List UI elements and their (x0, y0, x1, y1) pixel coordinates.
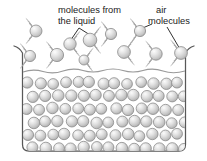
vapor-molecule-sphere (64, 38, 76, 50)
vapor-molecule-sphere (79, 55, 89, 65)
liquid-molecule (153, 90, 164, 101)
liquid-molecule (172, 128, 183, 139)
vapor-molecule-sphere (134, 25, 145, 36)
liquid-molecule (161, 78, 172, 89)
liquid-molecule (84, 104, 95, 115)
liquid-molecule (122, 79, 133, 90)
liquid-molecule (98, 78, 109, 89)
liquid-molecule (60, 103, 71, 114)
liquid-molecule (136, 77, 147, 88)
liquid-molecule (40, 116, 51, 127)
liquid-molecule (136, 103, 147, 114)
label-right-line1: air (156, 5, 166, 15)
vapor-molecule-sphere (30, 25, 42, 37)
liquid-molecule (167, 91, 178, 102)
liquid-molecule (73, 103, 84, 114)
liquid-molecule (61, 77, 72, 88)
liquid-molecule (108, 78, 119, 89)
liquid-molecule (147, 103, 158, 114)
vapor-molecule-sphere (150, 48, 162, 60)
liquid-molecule (84, 130, 95, 141)
liquid-molecule (28, 117, 40, 129)
liquid-molecule (48, 129, 59, 140)
vapor-molecule-sphere (83, 33, 97, 47)
liquid-molecule (110, 130, 121, 141)
liquid-molecule (91, 117, 103, 129)
liquid-molecule (27, 91, 38, 102)
liquid-molecule (22, 77, 33, 88)
liquid-molecule (92, 142, 103, 153)
liquid-molecule (78, 90, 89, 101)
liquid-molecule (103, 117, 114, 128)
liquid-molecule (66, 90, 77, 101)
liquid-molecule (39, 90, 50, 101)
liquid-molecule (160, 104, 171, 115)
label-left-line1: molecules from (58, 5, 121, 15)
liquid-molecule (73, 130, 84, 141)
figure-root: molecules from the liquid air molecules (0, 0, 207, 161)
liquid-molecule (141, 90, 153, 102)
liquid-molecule (47, 102, 59, 114)
liquid-molecule (34, 104, 45, 115)
liquid-molecule (83, 76, 94, 87)
liquid-molecule (122, 128, 134, 140)
liquid-molecule (117, 116, 128, 127)
liquid-molecule (134, 131, 145, 142)
liquid-molecule (141, 116, 152, 127)
liquid-molecule (128, 89, 140, 101)
liquid-molecule (96, 129, 107, 140)
liquid-molecule (129, 115, 141, 127)
liquid-molecule (172, 77, 183, 88)
liquid-molecule (96, 103, 107, 114)
liquid-molecule (148, 78, 160, 90)
liquid-molecule (22, 129, 33, 140)
vapor-molecule-sphere (118, 46, 131, 59)
liquid-molecule (90, 89, 101, 100)
label-left-line2: the liquid (58, 16, 95, 26)
liquid-molecule (58, 128, 69, 139)
liquid-molecule (116, 89, 127, 100)
vapor-molecule-sphere (175, 47, 188, 60)
liquid-molecule (77, 116, 88, 127)
liquid-molecule (48, 79, 59, 90)
liquid-molecule (166, 118, 177, 129)
liquid-molecule (173, 104, 184, 115)
vapor-molecule-sphere (24, 50, 35, 61)
liquid-molecule (35, 130, 46, 141)
liquid-molecule (35, 78, 46, 89)
liquid-molecule (66, 116, 77, 127)
liquid-molecule (147, 128, 158, 139)
liquid-molecule (160, 130, 171, 141)
vapor-molecule-sphere (105, 28, 116, 39)
vapor-molecule-sphere (50, 48, 63, 61)
evaporation-diagram-svg: molecules from the liquid air molecules (0, 0, 207, 161)
liquid-molecule (52, 115, 63, 126)
liquid-molecule (111, 103, 122, 114)
liquid-molecule (153, 116, 165, 128)
liquid-molecule (73, 76, 84, 87)
liquid-molecule (122, 104, 133, 115)
liquid-molecule (103, 90, 114, 101)
label-right-line2: molecules (148, 16, 190, 26)
liquid-molecule (53, 90, 65, 102)
